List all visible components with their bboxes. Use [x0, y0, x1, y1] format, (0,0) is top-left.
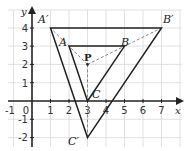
y-axis-label: y [20, 6, 27, 17]
vertex-labels: A′ B′ C′ A B C P [37, 13, 174, 148]
label-b-prime: B′ [162, 13, 174, 26]
x-axis-label: x [175, 105, 181, 116]
x-tick: 6 [140, 105, 146, 116]
x-tick: 7 [158, 105, 164, 116]
y-tick: 2 [22, 59, 28, 70]
label-c: C [92, 88, 101, 101]
y-tick: 4 [22, 23, 28, 34]
label-p: P [84, 52, 92, 63]
x-tick-labels: -1 0 1 2 3 4 5 6 7 [5, 105, 165, 116]
label-b: B [120, 36, 129, 49]
label-c-prime: C′ [68, 135, 79, 148]
y-tick: -1 [18, 114, 28, 125]
label-a-prime: A′ [37, 13, 49, 26]
y-tick: 3 [22, 41, 28, 52]
enlargement-diagram: x y -1 0 1 2 3 4 5 6 7 4 3 2 1 -1 -2 [0, 0, 187, 151]
x-tick: -1 [5, 105, 15, 116]
y-tick: -2 [18, 132, 28, 143]
x-tick: 2 [66, 105, 72, 116]
y-tick: 1 [22, 78, 28, 89]
x-tick: 1 [47, 105, 53, 116]
centre-point-p [86, 63, 89, 66]
label-a: A [58, 36, 67, 49]
x-tick: 5 [121, 105, 127, 116]
